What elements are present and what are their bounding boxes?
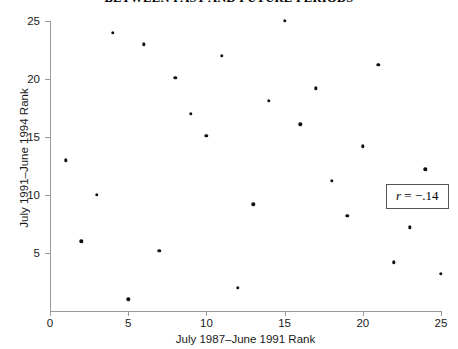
x-axis-tick [441,311,442,316]
data-point [330,179,333,182]
x-axis-tick-label: 20 [348,317,378,329]
x-axis-tick-label: 25 [426,317,456,329]
x-axis-tick [285,311,286,316]
x-axis-tick [128,311,129,316]
data-point [236,286,239,289]
data-point [158,249,161,252]
data-point [220,54,223,57]
chart-title: BETWEEN PAST AND FUTURE PERIODS [0,0,458,6]
data-point [173,76,176,79]
data-point [283,19,286,22]
data-point [361,145,364,148]
data-point [189,112,192,115]
data-point [392,261,395,264]
data-point [314,87,317,90]
data-point [205,134,208,137]
x-axis-tick-label: 0 [35,317,65,329]
x-axis-tick [206,311,207,316]
correlation-value: −.14 [415,188,439,203]
data-point [424,168,427,171]
x-axis-tick [50,311,51,316]
x-axis-tick-label: 10 [191,317,221,329]
data-point [299,123,302,126]
data-point [95,193,98,196]
plot-area [50,21,441,311]
data-point [252,203,255,206]
correlation-annotation: r = −.14 [386,184,449,209]
data-point [126,298,129,301]
data-point [142,42,145,45]
data-point [377,63,380,66]
x-axis-tick-label: 15 [270,317,300,329]
data-point [64,158,67,161]
x-axis-tick-label: 5 [113,317,143,329]
correlation-equals: = [401,188,415,203]
y-axis-title: July 1991–June 1994 Rank [18,48,30,268]
y-axis-tick-label: 25 [14,15,40,27]
data-point [408,226,411,229]
scatter-plot-figure: BETWEEN PAST AND FUTURE PERIODS 51015202… [0,0,458,349]
x-axis-line [50,311,441,312]
x-axis-tick [363,311,364,316]
data-point [439,272,442,275]
data-point [80,240,83,243]
data-point [267,99,270,102]
data-point [345,214,348,217]
data-point [111,31,114,34]
x-axis-title: July 1987–June 1991 Rank [50,333,441,345]
